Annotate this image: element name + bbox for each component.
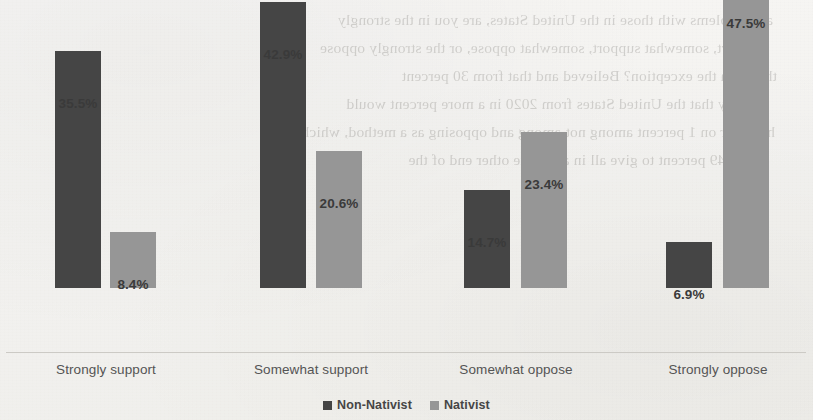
bar-non-nativist-somewhat-support — [260, 2, 306, 288]
category-label-somewhat-support: Somewhat support — [254, 362, 368, 377]
chart-legend: Non-Nativist Nativist — [0, 398, 813, 412]
data-label-nativist-strongly-oppose: 47.5% — [727, 16, 766, 31]
legend-item-non-nativist[interactable]: Non-Nativist — [323, 398, 412, 412]
category-label-strongly-support: Strongly support — [56, 362, 156, 377]
legend-item-nativist[interactable]: Nativist — [430, 398, 490, 412]
data-label-non-nativist-strongly-oppose: 6.9% — [673, 287, 704, 302]
legend-swatch-icon — [323, 401, 332, 410]
legend-label: Non-Nativist — [337, 398, 412, 412]
data-label-non-nativist-strongly-support: 35.5% — [59, 96, 98, 111]
category-label-strongly-oppose: Strongly oppose — [668, 362, 767, 377]
grouped-bar-chart: 35.5% 8.4% 42.9% 20.6% 14.7% 23.4% 6.9% … — [0, 0, 813, 420]
bar-nativist-somewhat-support — [316, 151, 362, 288]
data-label-nativist-somewhat-oppose: 23.4% — [525, 177, 564, 192]
bar-nativist-strongly-oppose — [723, 0, 769, 288]
category-label-somewhat-oppose: Somewhat oppose — [459, 362, 572, 377]
data-label-non-nativist-somewhat-support: 42.9% — [264, 47, 303, 62]
bar-nativist-somewhat-oppose — [521, 132, 567, 288]
legend-swatch-icon — [430, 401, 439, 410]
plot-area: 35.5% 8.4% 42.9% 20.6% 14.7% 23.4% 6.9% … — [0, 0, 813, 356]
data-label-nativist-strongly-support: 8.4% — [117, 277, 148, 292]
legend-label: Nativist — [444, 398, 490, 412]
data-label-nativist-somewhat-support: 20.6% — [320, 196, 359, 211]
category-axis-line — [6, 352, 806, 353]
bar-non-nativist-strongly-oppose — [666, 242, 712, 288]
bar-non-nativist-strongly-support — [55, 51, 101, 288]
data-label-non-nativist-somewhat-oppose: 14.7% — [468, 235, 507, 250]
